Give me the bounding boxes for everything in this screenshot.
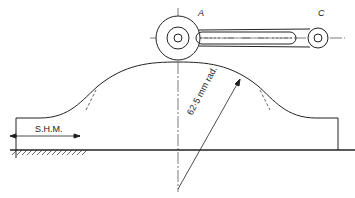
roller-a — [156, 16, 200, 60]
ground-hatching — [12, 150, 87, 155]
radius-arrow — [178, 79, 240, 189]
cam-diagram: A C S.H.M. 62·5 mm rad. — [0, 0, 355, 198]
pivot-c — [308, 28, 328, 48]
diagram-drawing — [0, 0, 355, 198]
cam-profile — [16, 62, 338, 158]
label-c: C — [318, 8, 325, 18]
label-shm: S.H.M. — [35, 124, 63, 134]
label-a: A — [198, 8, 204, 18]
